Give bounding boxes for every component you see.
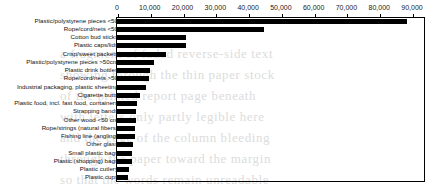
bar <box>117 93 140 98</box>
category-label: Plastic/polystyrene pieces <50 <box>35 17 118 25</box>
category-label: Plastic cutlery <box>80 165 118 173</box>
bar <box>117 142 133 147</box>
bar <box>117 76 149 81</box>
bar <box>117 85 146 90</box>
x-tick-label: 20,000 <box>172 4 193 11</box>
x-tick-label: 10,000 <box>139 4 160 11</box>
x-tick-label: 60,000 <box>303 4 324 11</box>
category-label: Strapping bands <box>73 107 118 115</box>
category-label: Rope/cord/nets >50 <box>64 74 118 82</box>
bar-row: Plastic food, incl. fast food, container… <box>0 100 436 108</box>
category-label: Rope/cord/nets <50 <box>64 25 118 33</box>
category-label: Cotton bud sticks <box>71 33 118 41</box>
bar <box>117 101 137 106</box>
bar-row: Plastic cups <box>0 174 436 182</box>
category-label: Small plastic bags <box>68 149 118 157</box>
category-label: Plastic/polystyrene pieces >50cm <box>26 58 118 66</box>
category-label: Other wood <50 cm <box>64 116 118 124</box>
bar-row: Fishing line (angling) <box>0 133 436 141</box>
x-tick-label: 70,000 <box>336 4 357 11</box>
bar-row: Plastic (shopping) bags <box>0 157 436 165</box>
bar <box>117 52 166 57</box>
category-label: Industrial packaging, plastic sheeting <box>17 83 118 91</box>
bar <box>117 43 186 48</box>
x-tick-label: 0 <box>115 4 119 11</box>
category-label: Other glass <box>86 140 118 148</box>
category-label: Fishing line (angling) <box>61 132 118 140</box>
x-tick-label: 30,000 <box>205 4 226 11</box>
bar-row: Other glass <box>0 141 436 149</box>
bar <box>117 126 135 131</box>
bar <box>117 167 129 172</box>
bar <box>117 109 136 114</box>
bar-row: Plastic cutlery <box>0 166 436 174</box>
bar <box>117 134 135 139</box>
category-label: Plastic drink bottles <box>65 66 118 74</box>
bar <box>117 27 264 32</box>
x-tick-label: 80,000 <box>369 4 390 11</box>
x-tick-label: 50,000 <box>270 4 291 11</box>
bar-row: Cotton bud sticks <box>0 34 436 42</box>
bar-rows-container: Plastic/polystyrene pieces <50Rope/cord/… <box>0 17 436 182</box>
bar <box>117 60 154 65</box>
bar <box>117 35 186 40</box>
bar <box>117 118 136 123</box>
beach-litter-bar-chart: 010,00020,00030,00040,00050,00060,00070,… <box>0 0 436 189</box>
bar <box>117 151 132 156</box>
category-label: Rope/strings (natural fibers) <box>42 124 118 132</box>
category-label: Plastic food, incl. fast food, container… <box>14 99 118 107</box>
category-label: Cigarette butts <box>78 91 118 99</box>
bar-row: Industrial packaging, plastic sheeting <box>0 83 436 91</box>
x-tick-label: 40,000 <box>237 4 258 11</box>
x-tick-label: 90,000 <box>401 4 422 11</box>
bar <box>117 19 407 24</box>
category-label: Plastic caps/lids <box>74 41 118 49</box>
category-label: Plastic cups <box>85 173 118 181</box>
bar <box>117 175 128 180</box>
bar <box>117 68 150 73</box>
bar-row: Rope/cord/nets <50 <box>0 25 436 33</box>
bar <box>117 159 132 164</box>
category-label: Plastic (shopping) bags <box>54 157 118 165</box>
category-label: Crisp/sweet packets <box>63 50 118 58</box>
x-axis-tick-labels: 010,00020,00030,00040,00050,00060,00070,… <box>0 4 436 16</box>
